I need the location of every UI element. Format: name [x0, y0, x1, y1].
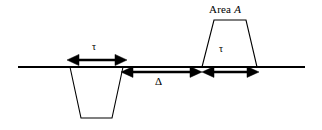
- tau-left-dimension-arrow: [67, 54, 127, 65]
- tau-left-label: τ: [92, 42, 96, 52]
- delta-label: Δ: [155, 76, 162, 87]
- pulse-diagram-canvas: [0, 0, 322, 130]
- pulse-diagram-figure: Area A τ τ Δ: [0, 0, 322, 130]
- area-label: Area A: [209, 4, 241, 15]
- negative-trapezoid-shape: [70, 67, 123, 118]
- tau-right-label: τ: [219, 44, 223, 54]
- tau-right-dimension-arrow: [202, 67, 259, 78]
- positive-trapezoid-shape: [202, 20, 257, 67]
- area-label-text: Area: [209, 3, 234, 15]
- area-label-symbol: A: [234, 3, 241, 15]
